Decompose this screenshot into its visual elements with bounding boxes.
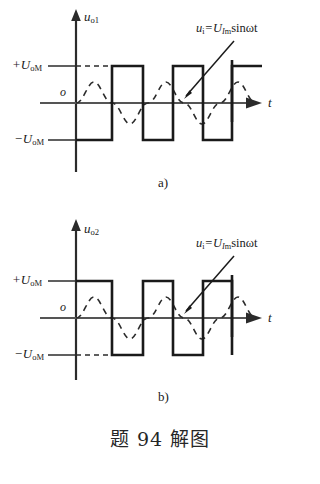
origin-label-a: o: [60, 86, 66, 98]
x-axis-label-a: t: [268, 96, 272, 109]
level-label-negative-a: −UoM: [14, 132, 44, 147]
figure-caption: 题 94 解图: [0, 424, 320, 451]
input-formula-a: ui=UImsinωt: [196, 22, 257, 37]
origin-label-b: o: [60, 301, 66, 313]
y-axis-label-b: uo2: [84, 222, 99, 237]
y-axis-label-a: uo1: [84, 10, 99, 25]
level-label-positive-a: +UoM: [12, 58, 42, 73]
subfigure-label-b: b): [158, 390, 169, 403]
output-square-wave-a: [76, 60, 262, 140]
waveform-plot-a: [0, 0, 320, 200]
input-formula-b: ui=UImsinωt: [196, 237, 257, 252]
x-axis-a: [40, 98, 262, 109]
level-label-negative-b: −UoM: [14, 347, 44, 362]
annotation-pointer-b: [184, 256, 234, 314]
level-label-positive-b: +UoM: [12, 273, 42, 288]
chart-panel-a: uo1 t +UoM −UoM o ui=UImsinωt a): [0, 0, 320, 200]
y-axis-a: [71, 9, 81, 172]
y-axis-b: [71, 219, 81, 380]
annotation-pointer-a: [184, 41, 234, 99]
subfigure-label-a: a): [158, 176, 168, 189]
chart-panel-b: uo2 t +UoM −UoM o ui=UImsinωt b): [0, 200, 320, 400]
x-axis-b: [40, 313, 262, 324]
figure-container: uo1 t +UoM −UoM o ui=UImsinωt a): [0, 0, 320, 484]
x-axis-label-b: t: [268, 311, 272, 324]
waveform-plot-b: [0, 200, 320, 400]
output-square-wave-b: [76, 275, 232, 355]
